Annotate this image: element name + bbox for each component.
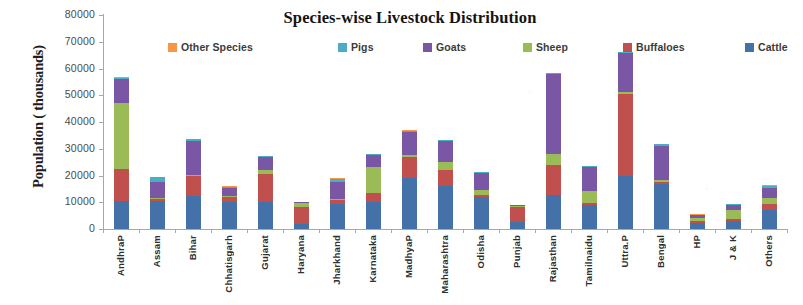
bar-stack[interactable] bbox=[186, 139, 201, 229]
bar-segment bbox=[366, 202, 381, 229]
bar-segment bbox=[438, 162, 453, 170]
x-tick-label: Jharkhand bbox=[331, 235, 343, 285]
x-tick-mark bbox=[679, 229, 680, 233]
y-tick-label: 60000 bbox=[35, 62, 95, 74]
bar-segment bbox=[582, 167, 597, 192]
bar-segment bbox=[546, 74, 561, 154]
x-tick-mark bbox=[355, 229, 356, 233]
bar-stack[interactable] bbox=[330, 178, 345, 229]
x-tick-mark bbox=[499, 229, 500, 233]
x-tick-label: Rajasthan bbox=[547, 235, 559, 282]
bar-segment bbox=[222, 188, 237, 197]
bar-segment bbox=[150, 201, 165, 229]
bar-segment bbox=[546, 195, 561, 229]
x-tick-label: J & K bbox=[727, 235, 739, 260]
bar-segment bbox=[258, 157, 273, 170]
bar-stack[interactable] bbox=[654, 144, 669, 229]
bar-stack[interactable] bbox=[582, 166, 597, 229]
bar-segment bbox=[258, 174, 273, 202]
x-tick-label: HP bbox=[691, 235, 703, 249]
x-tick-mark bbox=[139, 229, 140, 233]
bar-segment bbox=[366, 155, 381, 168]
bar-segment bbox=[654, 184, 669, 229]
bar-segment bbox=[150, 182, 165, 198]
y-tick-label: 20000 bbox=[35, 169, 95, 181]
bar-stack[interactable] bbox=[258, 156, 273, 229]
x-tick-label: Odisha bbox=[475, 235, 487, 268]
x-tick-mark bbox=[751, 229, 752, 233]
stacked-bar-chart: Species-wise Livestock Distribution Popu… bbox=[0, 0, 803, 305]
bar-stack[interactable] bbox=[402, 130, 417, 229]
bar-segment bbox=[366, 167, 381, 192]
x-tick-mark bbox=[211, 229, 212, 233]
x-tick-mark bbox=[571, 229, 572, 233]
bar-segment bbox=[438, 141, 453, 162]
x-tick-mark bbox=[715, 229, 716, 233]
x-tick-mark bbox=[391, 229, 392, 233]
x-tick-label: Gujarat bbox=[259, 235, 271, 270]
bar-stack[interactable] bbox=[294, 202, 309, 229]
bar-stack[interactable] bbox=[366, 154, 381, 229]
bar-segment bbox=[366, 193, 381, 202]
bar-stack[interactable] bbox=[690, 214, 705, 229]
bar-segment bbox=[402, 132, 417, 156]
x-tick-mark bbox=[463, 229, 464, 233]
bar-segment bbox=[690, 223, 705, 229]
x-tick-mark bbox=[643, 229, 644, 233]
bar-segment bbox=[294, 207, 309, 224]
x-tick-label: Haryana bbox=[295, 235, 307, 274]
bar-segment bbox=[186, 176, 201, 196]
bar-stack[interactable] bbox=[510, 205, 525, 229]
bar-stack[interactable] bbox=[726, 204, 741, 229]
x-tick-label: Others bbox=[763, 235, 775, 267]
bar-segment bbox=[762, 188, 777, 197]
y-tick-label: 40000 bbox=[35, 115, 95, 127]
x-axis-line bbox=[103, 229, 788, 230]
bar-segment bbox=[330, 204, 345, 229]
bar-segment bbox=[114, 79, 129, 103]
x-tick-mark bbox=[175, 229, 176, 233]
plot-area bbox=[103, 15, 787, 229]
bar-segment bbox=[186, 141, 201, 175]
bar-segment bbox=[114, 103, 129, 169]
bar-stack[interactable] bbox=[762, 185, 777, 229]
x-tick-mark bbox=[787, 229, 788, 233]
bar-segment bbox=[402, 178, 417, 229]
bar-segment bbox=[726, 221, 741, 229]
bar-segment bbox=[762, 204, 777, 211]
bar-segment bbox=[618, 53, 633, 92]
bar-segment bbox=[654, 146, 669, 180]
x-tick-label: Tamilnaidu bbox=[583, 235, 595, 286]
bar-stack[interactable] bbox=[546, 73, 561, 229]
x-tick-label: Maharashtra bbox=[439, 235, 451, 294]
bar-stack[interactable] bbox=[222, 186, 237, 229]
bar-segment bbox=[438, 170, 453, 186]
y-tick-label: 70000 bbox=[35, 35, 95, 47]
y-tick-label: 10000 bbox=[35, 195, 95, 207]
bar-stack[interactable] bbox=[474, 172, 489, 229]
bar-segment bbox=[510, 222, 525, 229]
x-tick-label: MadhyaP bbox=[403, 235, 415, 278]
bar-stack[interactable] bbox=[438, 140, 453, 229]
bar-segment bbox=[330, 182, 345, 198]
bar-segment bbox=[546, 165, 561, 195]
y-tick-label: 30000 bbox=[35, 142, 95, 154]
x-tick-mark bbox=[283, 229, 284, 233]
bar-stack[interactable] bbox=[114, 77, 129, 229]
x-tick-label: Bihar bbox=[187, 235, 199, 260]
bar-stack[interactable] bbox=[618, 52, 633, 229]
x-tick-label: Bengal bbox=[655, 235, 667, 268]
bar-stack[interactable] bbox=[150, 177, 165, 229]
x-tick-label: Punjab bbox=[511, 235, 523, 268]
bar-segment bbox=[582, 191, 597, 203]
y-tick-label: 80000 bbox=[35, 8, 95, 20]
bar-segment bbox=[762, 210, 777, 229]
bar-segment bbox=[438, 186, 453, 229]
bar-segment bbox=[114, 169, 129, 201]
bar-segment bbox=[222, 202, 237, 229]
bar-segment bbox=[510, 207, 525, 223]
x-tick-mark bbox=[535, 229, 536, 233]
y-tick-label: 50000 bbox=[35, 88, 95, 100]
bar-segment bbox=[582, 205, 597, 229]
x-tick-mark bbox=[319, 229, 320, 233]
